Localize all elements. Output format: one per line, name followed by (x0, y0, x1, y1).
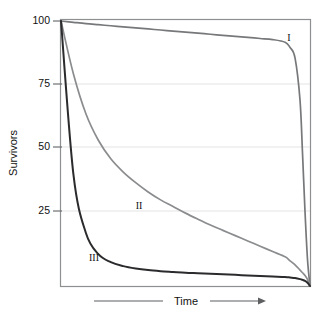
y-tick-label-25: 25 (38, 204, 50, 216)
x-axis-arrowhead-icon (258, 298, 266, 305)
y-tick-label-100: 100 (32, 14, 50, 26)
y-tick-label-50: 50 (38, 140, 50, 152)
x-axis-title-group: Time (94, 295, 266, 307)
plot-area-background (60, 19, 311, 287)
curve-label-iii: III (89, 252, 99, 263)
curve-label-i: I (287, 32, 290, 43)
chart-canvas: 100 75 50 25 Survivors I II III Time (0, 0, 326, 316)
y-tick-label-75: 75 (38, 77, 50, 89)
curve-label-ii: II (136, 200, 143, 211)
y-axis-title: Survivors (7, 130, 19, 176)
survivorship-curve-figure: 100 75 50 25 Survivors I II III Time (0, 0, 326, 316)
x-axis-title: Time (174, 295, 198, 307)
